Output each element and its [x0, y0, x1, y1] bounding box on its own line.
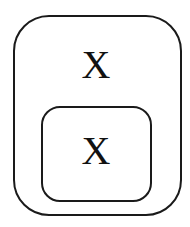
outer-label: X: [66, 45, 126, 85]
diagram-canvas: X X: [0, 0, 190, 227]
inner-label: X: [66, 131, 126, 171]
